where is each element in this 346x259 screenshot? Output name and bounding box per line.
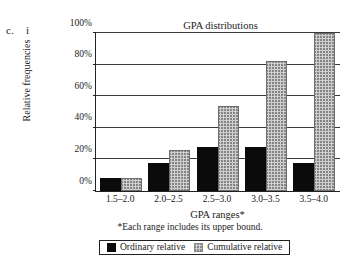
bar-cumulative — [266, 61, 287, 191]
x-tick-label: 2.5–3.0 — [193, 194, 241, 204]
chart-legend: Ordinary relativeCumulative relative — [99, 240, 290, 255]
bar-ordinary — [197, 147, 218, 191]
legend-item: Cumulative relative — [194, 242, 282, 252]
chart-title: GPA distributions — [95, 20, 346, 32]
y-tick-label: 40% — [75, 114, 92, 124]
bar-group — [242, 33, 290, 191]
legend-label: Ordinary relative — [120, 242, 185, 252]
bar-group — [97, 33, 145, 191]
y-tick-label: 80% — [75, 50, 92, 60]
bar-group — [193, 33, 241, 191]
bar-cumulative — [121, 178, 142, 191]
bar-ordinary — [148, 163, 169, 191]
bar-cumulative — [314, 33, 335, 191]
bar-ordinary — [100, 178, 121, 191]
y-tick-label: 100% — [70, 19, 92, 29]
legend-swatch-icon — [194, 243, 203, 252]
bar-cumulative — [218, 106, 239, 191]
bar-ordinary — [245, 147, 266, 191]
bar-group — [290, 33, 338, 191]
y-axis-label: Relative frequencies — [21, 16, 32, 146]
problem-label: c. — [6, 24, 14, 36]
y-tick-label: 20% — [75, 145, 92, 155]
y-tick-label: 60% — [75, 82, 92, 92]
legend-swatch-icon — [107, 243, 116, 252]
x-tick-label: 3.5–4.0 — [290, 194, 338, 204]
x-axis-label: GPA ranges* — [95, 209, 340, 220]
x-axis-tick-labels: 1.5–2.02.0–2.52.5–3.03.0–3.53.5–4.0 — [95, 194, 340, 204]
x-tick-label: 3.0–3.5 — [241, 194, 289, 204]
figure-root: c. i GPA distributions Relative frequenc… — [0, 0, 346, 259]
y-tick-label: 0% — [79, 177, 92, 187]
x-tick-label: 2.0–2.5 — [144, 194, 192, 204]
bar-ordinary — [293, 163, 314, 191]
legend-label: Cumulative relative — [207, 242, 282, 252]
legend-item: Ordinary relative — [107, 242, 185, 252]
bar-group — [145, 33, 193, 191]
chart-footnote: *Each range includes its upper bound. — [40, 222, 340, 232]
x-tick-label: 1.5–2.0 — [96, 194, 144, 204]
plot-area: 0%20%40%60%80%100% — [95, 33, 340, 192]
bars-layer — [96, 33, 340, 191]
bar-cumulative — [169, 150, 190, 191]
